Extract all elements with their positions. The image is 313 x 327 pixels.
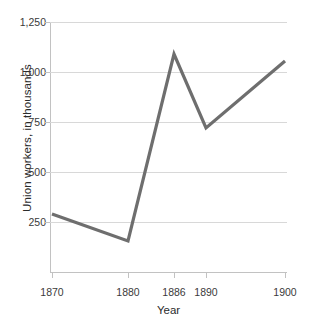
y-axis-tick-mark xyxy=(45,122,50,123)
y-axis-tick-mark xyxy=(45,222,50,223)
x-axis-tick-label: 1870 xyxy=(40,286,63,298)
line-chart: Union workers, in thousands 2505007501,0… xyxy=(0,0,313,327)
y-axis-tick-label: 1,250 xyxy=(2,16,46,28)
y-axis-tick-label: 750 xyxy=(2,116,46,128)
x-axis-tick-label: 1880 xyxy=(116,286,139,298)
y-axis-tick-label: 500 xyxy=(2,166,46,178)
y-axis-tick-mark xyxy=(45,72,50,73)
x-axis-tick-mark xyxy=(174,273,175,278)
x-axis-line xyxy=(50,272,287,273)
x-axis-tick-mark xyxy=(52,273,53,278)
x-axis-tick-label: 1900 xyxy=(273,286,296,298)
union-workers-polyline xyxy=(52,54,285,241)
y-axis-tick-labels: 2505007501,0001,250 xyxy=(0,0,46,327)
y-axis-tick-mark xyxy=(45,172,50,173)
x-axis-tick-label: 1886 xyxy=(162,286,185,298)
x-axis-tick-mark xyxy=(206,273,207,278)
data-series-line xyxy=(50,22,287,272)
x-axis-tick-mark xyxy=(128,273,129,278)
y-axis-tick-label: 250 xyxy=(2,216,46,228)
x-axis-tick-mark xyxy=(285,273,286,278)
plot-area xyxy=(50,22,287,272)
y-axis-tick-label: 1,000 xyxy=(2,66,46,78)
x-axis-tick-label: 1890 xyxy=(194,286,217,298)
x-axis-title: Year xyxy=(50,304,287,316)
y-axis-tick-mark xyxy=(45,22,50,23)
